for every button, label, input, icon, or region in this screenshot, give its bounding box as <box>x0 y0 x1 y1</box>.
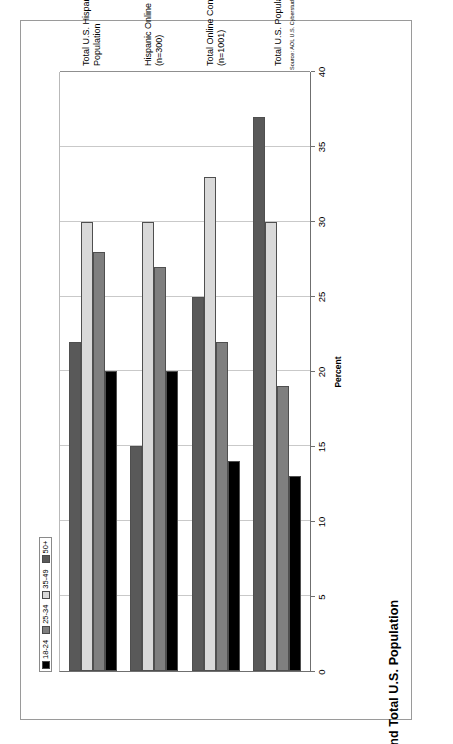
bar-row <box>289 72 301 671</box>
legend-swatch-icon-50+ <box>42 555 50 563</box>
bar-group <box>124 72 186 671</box>
legend-label: 18-24 <box>41 640 50 659</box>
bar-row <box>142 72 154 671</box>
axis-tick-label: 35 <box>316 142 327 153</box>
axis-tick-label: 25 <box>316 292 327 303</box>
bar-row <box>69 72 81 671</box>
category-label: Total U.S. Hispanic Population <box>61 0 123 70</box>
page-border: 18-2425-3435-4950+ 0510152025303540 Perc… <box>20 20 412 720</box>
bar-row <box>265 72 277 671</box>
axis-tick <box>311 521 315 522</box>
chart-legend: 18-2425-3435-4950+ <box>39 537 52 672</box>
bar-row <box>277 72 289 671</box>
axis-tick <box>311 146 315 147</box>
bar-25-34 <box>154 267 166 671</box>
bar-35-49 <box>81 222 93 671</box>
axis-tick <box>311 596 315 597</box>
figure-caption: Figure 40 - Online Age Demographics for … <box>387 600 401 744</box>
bar-50+ <box>253 117 265 671</box>
bar-50+ <box>69 342 81 671</box>
source-note: Source: AOL U.S. Cyberstudy <box>289 0 295 70</box>
axis-tick-label: 10 <box>316 517 327 528</box>
legend-entry-18-24: 18-24 <box>41 640 50 669</box>
bar-row <box>93 72 105 671</box>
axis-tick-label: 40 <box>316 67 327 78</box>
bar-50+ <box>130 446 142 671</box>
axis-tick-label: 30 <box>316 217 327 228</box>
bar-group <box>185 72 247 671</box>
bar-25-34 <box>93 252 105 671</box>
bar-row <box>154 72 166 671</box>
bar-row <box>192 72 204 671</box>
legend-label: 50+ <box>41 541 50 554</box>
bar-groups <box>60 72 310 671</box>
plot-area <box>59 72 311 672</box>
bar-row <box>228 72 240 671</box>
bar-row <box>105 72 117 671</box>
category-label: Hispanic Online Consumers (n=300) <box>123 0 185 70</box>
category-label: Total U.S. Population <box>247 0 309 70</box>
axis-tick <box>311 296 315 297</box>
legend-entry-25-34: 25-34 <box>41 605 50 634</box>
legend-label: 35-49 <box>41 569 50 588</box>
bar-35-49 <box>265 222 277 671</box>
bar-row <box>216 72 228 671</box>
legend-swatch-icon-18-24 <box>42 661 50 669</box>
axis-tick <box>311 446 315 447</box>
axis-tick-label: 15 <box>316 442 327 453</box>
bar-row <box>204 72 216 671</box>
bar-18-24 <box>166 372 178 672</box>
bar-35-49 <box>204 177 216 671</box>
bar-row <box>81 72 93 671</box>
axis-tick <box>311 671 315 672</box>
axis-tick <box>311 221 315 222</box>
axis-tick-label: 0 <box>316 669 327 674</box>
bar-25-34 <box>216 342 228 671</box>
bar-group <box>62 72 124 671</box>
legend-swatch-icon-25-34 <box>42 626 50 634</box>
legend-entry-35-49: 35-49 <box>41 569 50 598</box>
bar-row <box>130 72 142 671</box>
axis-tick-label: 5 <box>316 594 327 599</box>
bar-group <box>247 72 309 671</box>
axis-tick-label: 20 <box>316 367 327 378</box>
bar-18-24 <box>228 461 240 671</box>
axis-tick <box>311 371 315 372</box>
bar-50+ <box>192 297 204 671</box>
bar-35-49 <box>142 222 154 671</box>
legend-label: 25-34 <box>41 605 50 624</box>
category-axis-labels: Total U.S. Hispanic PopulationHispanic O… <box>59 0 311 70</box>
bar-row <box>166 72 178 671</box>
axis-tick <box>311 71 315 72</box>
legend-swatch-icon-35-49 <box>42 591 50 599</box>
bar-18-24 <box>105 372 117 672</box>
plot-region <box>59 72 311 672</box>
bar-25-34 <box>277 386 289 671</box>
bar-row <box>253 72 265 671</box>
legend-entry-50+: 50+ <box>41 541 50 564</box>
axis-title-percent: Percent <box>333 72 343 672</box>
rotated-figure: 18-2425-3435-4950+ 0510152025303540 Perc… <box>51 50 381 690</box>
bar-18-24 <box>289 476 301 671</box>
category-label: Total Online Consumers (n=1001) <box>185 0 247 70</box>
